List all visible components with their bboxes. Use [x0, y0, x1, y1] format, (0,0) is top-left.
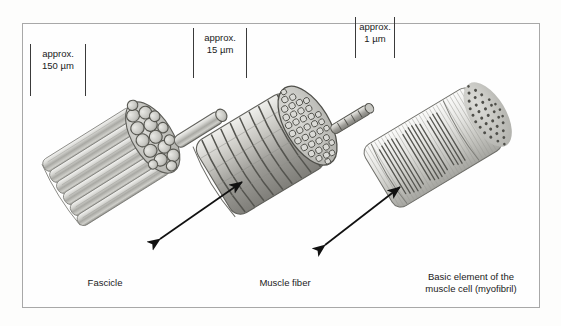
fascicle-scale-prefix: approx.	[42, 48, 74, 60]
muscle-fiber-scale-prefix: approx.	[204, 32, 236, 44]
muscle-fiber-scale-value: 15 µm	[207, 44, 234, 56]
myofibril-caption: Basic element of the muscle cell (myofib…	[406, 271, 536, 295]
myofibril-illustration	[360, 74, 521, 210]
myofibril-scale-value: 1 µm	[364, 33, 385, 45]
myofibril-scale-prefix: approx.	[359, 21, 391, 33]
muscle-fiber-illustration	[188, 54, 386, 221]
muscle-fiber-scale-bracket: approx. 15 µm	[193, 28, 247, 78]
muscle-fiber-caption: Muscle fiber	[230, 277, 340, 289]
fascicle-scale-value: 150 µm	[42, 60, 74, 72]
fascicle-caption: Fascicle	[55, 277, 155, 289]
arrow-fiber-to-myofibril	[325, 187, 400, 245]
figure-root: approx. 150 µm approx. 15 µm approx. 1 µ…	[0, 0, 561, 326]
fascicle-scale-bracket: approx. 150 µm	[30, 44, 86, 96]
myofibril-scale-bracket: approx. 1 µm	[355, 17, 395, 58]
muscle-fiber-single-myofibril	[329, 102, 375, 135]
